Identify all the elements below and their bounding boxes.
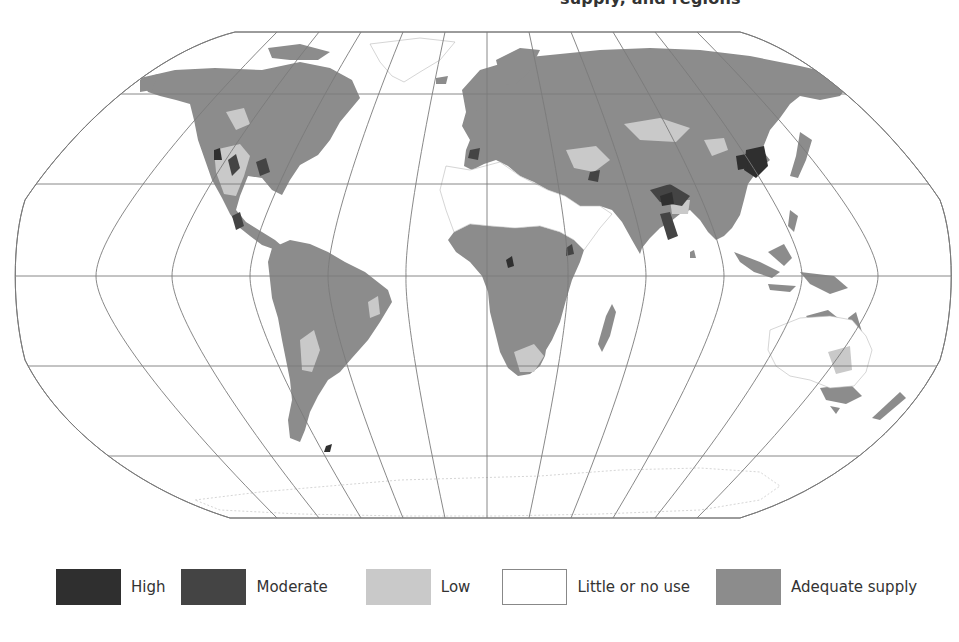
legend-swatch-low bbox=[366, 569, 431, 605]
legend-label-moderate: Moderate bbox=[256, 578, 327, 596]
legend-swatch-little-or-no-use bbox=[502, 569, 567, 605]
legend-label-low: Low bbox=[441, 578, 471, 596]
legend-item-little-or-no-use: Little or no use bbox=[502, 569, 690, 605]
legend-item-moderate: Moderate bbox=[181, 569, 327, 605]
legend: High Moderate Low Little or no use Adequ… bbox=[56, 567, 917, 607]
legend-swatch-adequate-supply bbox=[716, 569, 781, 605]
legend-label-adequate-supply: Adequate supply bbox=[791, 578, 917, 596]
legend-label-high: High bbox=[131, 578, 165, 596]
legend-label-little-or-no-use: Little or no use bbox=[577, 578, 690, 596]
legend-item-low: Low bbox=[366, 569, 471, 605]
legend-swatch-moderate bbox=[181, 569, 246, 605]
legend-item-adequate-supply: Adequate supply bbox=[716, 569, 917, 605]
legend-item-high: High bbox=[56, 569, 165, 605]
world-map bbox=[0, 0, 959, 540]
legend-swatch-high bbox=[56, 569, 121, 605]
